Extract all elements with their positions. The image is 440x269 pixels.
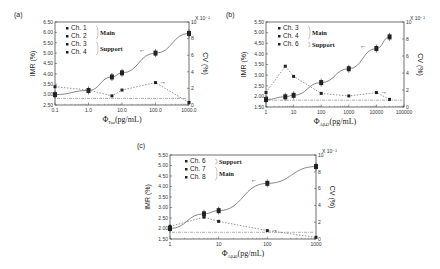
right-arrow-annotation: → <box>380 88 387 95</box>
cv-marker <box>265 91 268 94</box>
right-arrow-annotation: → <box>271 226 278 233</box>
legend-label: Ch. 3 <box>71 40 87 47</box>
panel-label: (b) <box>226 11 235 19</box>
y-tick-label: 4.00 <box>254 51 264 57</box>
y2-axis-label: CV (%) <box>328 186 336 209</box>
y2-multiplier: X 10⁻² <box>195 15 210 21</box>
y2-tick-label: 6 <box>406 53 409 59</box>
cv-line <box>170 217 316 237</box>
legend-group-label: Support <box>219 158 243 165</box>
y-tick-label: 5.00 <box>254 29 264 35</box>
legend-label: Ch. 6 <box>190 157 206 164</box>
y-tick-label: 5.00 <box>158 162 168 168</box>
cv-line <box>55 83 189 103</box>
y2-tick-label: 2 <box>191 85 194 91</box>
y2-multiplier: X 10⁻² <box>322 148 337 154</box>
cv-marker <box>320 92 323 95</box>
cv-marker <box>388 98 391 101</box>
left-arrow-annotation: ← <box>251 176 258 183</box>
y2-tick-label: 8 <box>191 35 194 41</box>
x-tick-label: 1000.0 <box>181 107 197 113</box>
legend-label: Ch. 4 <box>283 32 299 39</box>
cv-marker <box>87 89 90 92</box>
y2-tick-label: 4 <box>406 70 409 76</box>
cv-marker <box>266 229 269 232</box>
y2-tick-label: 6 <box>191 52 194 58</box>
cv-marker <box>203 216 206 219</box>
legend-label: Ch. 2 <box>71 32 87 39</box>
y-tick-label: 4.50 <box>158 173 168 179</box>
y-tick-label: 3.50 <box>158 194 168 200</box>
y-tick-label: 1.50 <box>158 236 168 242</box>
right-arrow-annotation: → <box>160 78 167 85</box>
chart-panel-b: (b)1.502.002.503.003.504.004.505.005.500… <box>226 11 425 127</box>
y2-tick-label: 2 <box>406 87 409 93</box>
x-tick-label: 0.1 <box>52 107 59 113</box>
x-axis-label: ΦTau(pg/mL) <box>102 115 142 125</box>
legend-marker <box>66 27 69 30</box>
legend-label: Ch. 7 <box>190 165 206 172</box>
y-tick-label: 3.00 <box>43 91 53 97</box>
legend-marker <box>66 35 69 38</box>
legend-marker <box>278 27 281 30</box>
legend-group-label: Main <box>100 29 115 36</box>
y2-axis-label: CV (%) <box>201 52 209 75</box>
x-tick-label: 10 <box>291 109 297 115</box>
y-axis-label: IMR (%) <box>240 52 248 78</box>
y-tick-label: 2.00 <box>254 93 264 99</box>
y-tick-label: 4.50 <box>254 40 264 46</box>
chart-panel-a: (a)2.503.003.504.004.505.005.506.006.500… <box>14 11 210 125</box>
x-tick-label: 1 <box>265 109 268 115</box>
x-tick-label: 100000 <box>396 109 413 115</box>
y-tick-label: 3.00 <box>158 204 168 210</box>
y2-axis-label: CV (%) <box>416 53 424 76</box>
y-tick-label: 3.50 <box>43 81 53 87</box>
y-tick-label: 3.00 <box>254 72 264 78</box>
x-axis-label: ΦAβ42(pg/mL) <box>314 117 357 127</box>
y2-tick-label: 8 <box>318 169 321 175</box>
cv-marker <box>121 89 124 92</box>
y-tick-label: 5.50 <box>158 152 168 158</box>
legend-label: Ch. 1 <box>71 24 87 31</box>
legend-group-label: Support <box>100 45 124 52</box>
y-tick-label: 4.00 <box>158 183 168 189</box>
y-tick-label: 4.00 <box>43 71 53 77</box>
legend-marker <box>278 35 281 38</box>
legend-group-label: Main <box>312 29 327 36</box>
y-tick-label: 4.50 <box>43 60 53 66</box>
y-tick-label: 3.50 <box>254 61 264 67</box>
x-tick-label: 10.0 <box>117 107 127 113</box>
legend-group-label: Main <box>219 170 234 177</box>
legend: Ch. 1Ch. 2Ch. 3Ch. 4MainSupport <box>66 24 124 55</box>
y-tick-label: 2.50 <box>254 83 264 89</box>
y-tick-label: 6.50 <box>43 19 53 25</box>
y-tick-label: 1.50 <box>254 104 264 110</box>
y-tick-label: 2.50 <box>158 215 168 221</box>
legend-label: Ch. 8 <box>190 173 206 180</box>
legend: Ch. 6Ch. 7Ch. 8SupportMain <box>185 157 243 180</box>
x-tick-label: 1000 <box>343 109 354 115</box>
x-tick-label: 10000 <box>369 109 383 115</box>
cv-marker <box>110 94 113 97</box>
cv-marker <box>284 65 287 68</box>
cv-marker <box>188 101 191 104</box>
chart-panel-c: (c)1.502.002.503.003.504.004.505.005.500… <box>137 142 337 259</box>
y-tick-label: 2.00 <box>158 225 168 231</box>
legend-marker <box>66 43 69 46</box>
x-tick-label: 100 <box>317 109 326 115</box>
cv-marker <box>375 91 378 94</box>
legend-marker <box>185 160 188 163</box>
left-arrow-annotation: ← <box>360 42 367 49</box>
cv-marker <box>292 75 295 78</box>
y2-tick-label: 4 <box>318 202 321 208</box>
panel-label: (a) <box>14 11 23 19</box>
x-tick-label: 1.0 <box>85 107 92 113</box>
panel-label: (c) <box>137 142 145 150</box>
x-tick-label: 100.0 <box>149 107 162 113</box>
y-tick-label: 6.00 <box>43 29 53 35</box>
legend-marker <box>185 176 188 179</box>
legend-label: Ch. 4 <box>71 48 87 55</box>
legend-label: Ch. 3 <box>283 24 299 31</box>
y-tick-label: 5.00 <box>43 50 53 56</box>
legend: Ch. 3Ch. 4Ch. 6MainSupport <box>278 24 336 48</box>
